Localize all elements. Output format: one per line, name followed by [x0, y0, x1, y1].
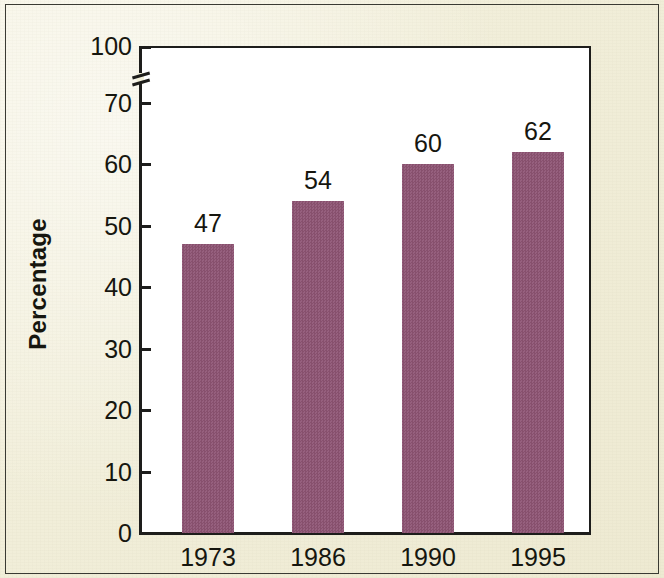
y-axis-title: Percentage: [24, 184, 52, 384]
y-tick-label-30: 30: [72, 337, 132, 362]
y-tick-10: [140, 471, 151, 474]
y-tick-50: [140, 225, 151, 228]
bar-1990: [402, 164, 454, 533]
plot-frame-top: [139, 46, 591, 48]
x-tick-label-1990: 1990: [373, 545, 483, 570]
y-axis-line: [139, 46, 142, 535]
bar-value-1986: 54: [278, 168, 358, 193]
y-tick-label-40: 40: [72, 275, 132, 300]
y-tick-20: [140, 409, 151, 412]
y-tick-100: [140, 46, 151, 49]
y-tick-0: [140, 532, 151, 535]
bar-value-1973: 47: [168, 211, 248, 236]
y-tick-70: [140, 102, 151, 105]
x-tick-label-1973: 1973: [153, 545, 263, 570]
bar-value-1995: 62: [498, 119, 578, 144]
y-tick-label-60: 60: [72, 152, 132, 177]
y-tick-label-100: 100: [72, 34, 132, 59]
bar-1986: [292, 201, 344, 533]
y-tick-label-group: 100 70 60 50 40 30 20 10 0: [58, 0, 132, 578]
y-tick-label-70: 70: [72, 91, 132, 116]
y-tick-label-50: 50: [72, 214, 132, 239]
x-tick-label-1986: 1986: [263, 545, 373, 570]
bar-1973: [182, 244, 234, 533]
plot-frame-right: [589, 46, 591, 535]
y-tick-30: [140, 348, 151, 351]
y-tick-40: [140, 286, 151, 289]
y-axis-break-icon: [132, 70, 150, 88]
y-tick-label-0: 0: [72, 521, 132, 546]
y-tick-label-20: 20: [72, 398, 132, 423]
y-tick-60: [140, 163, 151, 166]
bar-1995: [512, 152, 564, 533]
x-tick-label-1995: 1995: [483, 545, 593, 570]
chart-figure: 100 70 60 50 40 30 20 10 0 Percentage 47…: [0, 0, 664, 578]
bar-value-1990: 60: [388, 131, 468, 156]
y-tick-label-10: 10: [72, 460, 132, 485]
